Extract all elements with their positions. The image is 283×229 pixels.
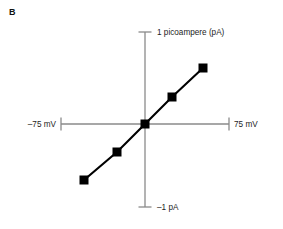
y-axis-bottom-label: –1 pA: [157, 203, 179, 212]
x-axis-right-label: 75 mV: [234, 120, 258, 129]
data-point-marker: [141, 120, 150, 129]
x-axis-left-label: –75 mV: [28, 120, 57, 129]
data-point-marker: [199, 64, 208, 73]
data-point-marker: [80, 176, 89, 185]
data-point-marker: [113, 148, 122, 157]
iv-curve-plot: 1 picoampere (pA) –1 pA –75 mV 75 mV: [0, 0, 283, 229]
y-axis-top-label: 1 picoampere (pA): [157, 28, 225, 37]
figure-panel: B 1 picoampere (pA) –1 pA: [0, 0, 283, 229]
data-point-marker: [168, 93, 177, 102]
